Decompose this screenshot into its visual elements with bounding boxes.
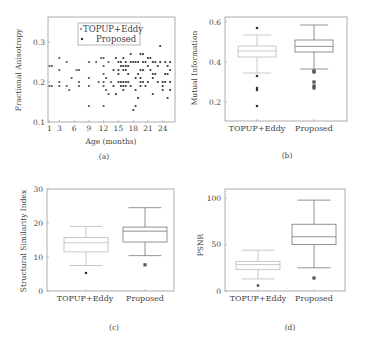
data-point [137,73,139,75]
data-point [162,89,164,91]
data-point [149,69,151,71]
legend-label-proposed: Proposed [96,34,137,44]
data-point [125,81,127,83]
data-point [48,85,50,87]
data-point [127,73,129,75]
data-point [152,73,154,75]
data-point [130,53,132,55]
data-point [120,85,122,87]
data-point [125,61,127,63]
box-iqr [236,261,280,269]
y-tick-label: 0.6 [209,18,221,27]
y-tick-label: 10 [33,253,43,262]
data-point [139,77,141,79]
data-point [51,85,53,87]
panel-b-boxplot: 0.20.40.6 Mutual Information TOPUP+Eddy … [190,17,347,160]
data-point [139,85,141,87]
x-tick-topup: TOPUP+Eddy [229,124,286,133]
data-point [135,61,137,63]
data-point [169,61,171,63]
outlier [312,70,315,73]
panel-c-boxplot: 0102030 Structural Similarity Index TOPU… [19,185,174,333]
y-tick-label: 100 [207,194,222,203]
data-point [147,81,149,83]
data-point [122,85,124,87]
y-tick-label: 0.2 [209,98,221,107]
data-point [144,61,146,63]
data-point [112,85,114,87]
data-point [112,69,114,71]
data-point [152,93,154,95]
data-point [167,97,169,99]
data-point [147,57,149,59]
boxplots: 050100 [207,194,336,296]
x-tick-label: 3 [57,124,62,133]
y-axis-label: Mutual Information [190,31,199,106]
y-tick-label: 50 [211,240,221,249]
data-point [132,61,134,63]
data-point [78,85,80,87]
panel-a-scatter: 0.10.20.3 13691215182124 TOPUP+Eddy Prop… [14,17,175,161]
figure: 0.10.20.3 13691215182124 TOPUP+Eddy Prop… [0,0,366,350]
data-point [149,57,151,59]
data-point [132,109,134,111]
data-point [107,61,109,63]
data-point [78,69,80,71]
caption-d: (d) [285,323,296,332]
x-tick-label: 12 [99,124,109,133]
data-point [167,65,169,67]
data-point [135,89,137,91]
data-point [71,77,73,79]
data-point [66,61,68,63]
data-point [164,73,166,75]
data-point [157,65,159,67]
data-point [68,89,70,91]
data-point [130,85,132,87]
x-tick-label: 18 [128,124,138,133]
caption-b: (b) [282,151,293,160]
data-point [139,53,141,55]
data-point [88,61,90,63]
outlier [143,263,146,266]
y-tick-label: 0 [216,287,221,296]
caption-a: (a) [99,152,109,161]
data-point [117,73,119,75]
panel-d-boxplot: 050100 PSNR TOPUP+Eddy Proposed (d) [196,189,345,332]
data-point [164,61,166,63]
outlier [312,80,315,83]
data-point [48,65,50,67]
data-point [76,69,78,71]
data-point [154,61,156,63]
data-point [88,85,90,87]
outlier [256,27,259,30]
data-point [164,81,166,83]
data-point [103,65,105,67]
outlier [256,89,259,92]
data-point [147,65,149,67]
data-point [58,81,60,83]
data-point [169,81,171,83]
outlier [257,284,260,287]
data-point [117,61,119,63]
data-point [122,89,124,91]
y-tick-label: 0.3 [33,38,45,47]
x-tick-proposed: Proposed [126,294,164,303]
outlier [256,105,259,108]
plot-frame [225,17,347,121]
data-point [58,85,60,87]
y-axis-label: Structural Similarity Index [19,189,28,292]
data-point [159,45,161,47]
data-point [100,57,102,59]
data-point [135,105,137,107]
box-iqr [123,227,167,242]
x-tick-label: 15 [114,124,124,133]
data-point [154,73,156,75]
y-tick-label: 0.1 [33,118,45,127]
x-tick-label: 21 [143,124,153,133]
data-point [152,61,154,63]
y-tick-label: 20 [33,219,43,228]
outlier [85,272,88,275]
data-point [157,81,159,83]
y-axis-ticks: 0.10.20.3 [33,38,50,127]
data-point [95,61,97,63]
